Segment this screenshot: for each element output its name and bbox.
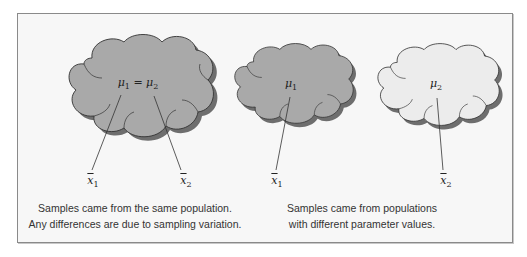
caption-line: with different parameter values. <box>287 216 437 232</box>
caption-line: Samples came from the same population. <box>29 200 242 216</box>
label-mu2: μ2 <box>430 77 442 92</box>
label-mu1: μ1 <box>285 77 297 92</box>
caption-line: Any differences are due to sampling vari… <box>29 216 242 232</box>
caption-same-population: Samples came from the same population. A… <box>29 200 242 232</box>
label-xbar2-same: x2 <box>180 174 191 189</box>
caption-different-populations: Samples came from populations with diffe… <box>287 200 437 232</box>
label-xbar2-diff: x2 <box>440 174 451 189</box>
label-xbar1-same: x1 <box>87 174 98 189</box>
caption-line: Samples came from populations <box>287 200 437 216</box>
label-xbar1-diff: x1 <box>271 174 282 189</box>
label-mu1-equals-mu2: μ1 = μ2 <box>118 76 159 91</box>
